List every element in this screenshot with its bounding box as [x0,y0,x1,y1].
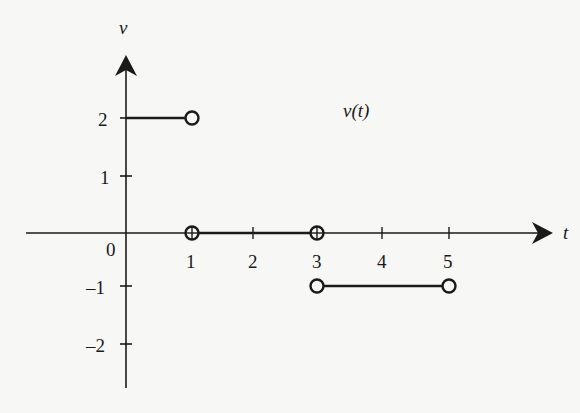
x-tick-label: 4 [377,252,387,271]
x-tick-label: 3 [312,252,322,271]
signal-segments [126,118,443,286]
origin-label: 0 [106,240,116,259]
x-tick-label: 2 [248,252,258,271]
piecewise-signal-plot: v t v(t) 0 1 2 3 4 5 2 1 –1 –2 [0,0,580,413]
y-tick-label: 1 [100,168,110,187]
open-circle-icon [443,280,456,293]
open-circle-icon [186,112,199,125]
x-axis-label: t [563,223,568,242]
x-tick-label: 5 [443,252,453,271]
y-tick-label: 2 [98,110,108,129]
open-circle-icon [311,280,324,293]
x-tick-label: 1 [186,252,196,271]
curve-label: v(t) [343,101,369,120]
y-tick-label: –1 [86,278,105,297]
y-axis-label: v [119,18,127,37]
y-tick-label: –2 [86,336,105,355]
